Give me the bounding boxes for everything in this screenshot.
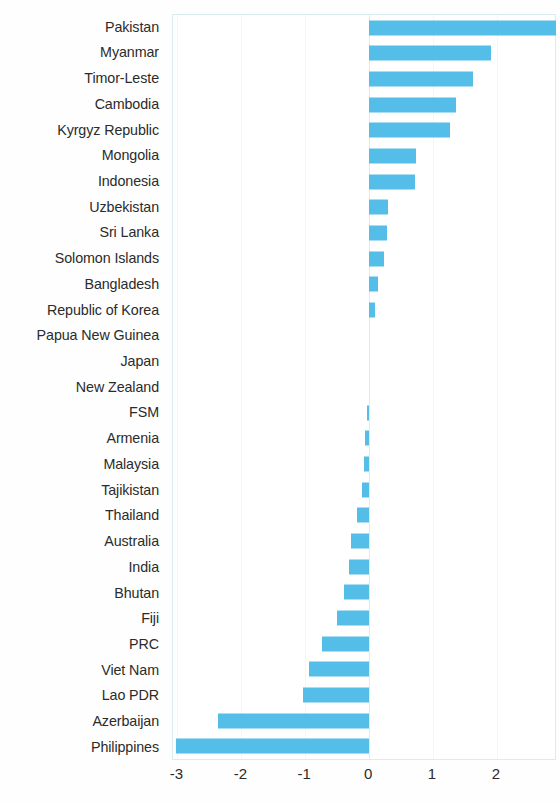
category-label: Bhutan [0, 580, 166, 606]
bar[interactable] [365, 431, 369, 446]
bar[interactable] [369, 277, 378, 292]
bar[interactable] [176, 739, 369, 754]
bar[interactable] [349, 559, 369, 574]
bar[interactable] [369, 303, 375, 318]
category-label: Indonesia [0, 168, 166, 194]
value-tick-label: 0 [364, 766, 372, 781]
bar[interactable] [369, 251, 384, 266]
bar[interactable] [369, 20, 556, 35]
bar-row [173, 41, 555, 67]
plot-area [172, 14, 556, 760]
category-label: Myanmar [0, 40, 166, 66]
bar-row [173, 246, 555, 272]
bar-row [173, 323, 555, 349]
bar-row [173, 502, 555, 528]
bar[interactable] [369, 97, 456, 112]
category-label: Republic of Korea [0, 297, 166, 323]
category-label: Lao PDR [0, 683, 166, 709]
bar[interactable] [362, 482, 369, 497]
value-tick-label: 1 [428, 766, 436, 781]
bar[interactable] [344, 585, 369, 600]
bar-row [173, 15, 555, 41]
bar[interactable] [369, 174, 414, 189]
bar[interactable] [218, 713, 369, 728]
bar-row [173, 477, 555, 503]
bar[interactable] [367, 405, 370, 420]
bar[interactable] [364, 456, 369, 471]
bar-row [173, 708, 555, 734]
horizontal-bar-chart: PakistanMyanmarTimor-LesteCambodiaKyrgyz… [0, 0, 559, 804]
bar-row [173, 528, 555, 554]
bar[interactable] [351, 533, 370, 548]
category-label: FSM [0, 400, 166, 426]
category-label: New Zealand [0, 374, 166, 400]
bar-row [173, 554, 555, 580]
category-label: Papua New Guinea [0, 323, 166, 349]
bar-row [173, 297, 555, 323]
category-label: Mongolia [0, 143, 166, 169]
bar-row [173, 656, 555, 682]
category-label: PRC [0, 631, 166, 657]
bar-row [173, 374, 555, 400]
category-label: Pakistan [0, 14, 166, 40]
bar-row [173, 66, 555, 92]
bar[interactable] [369, 123, 450, 138]
value-tick-label: -2 [234, 766, 247, 781]
category-axis-labels: PakistanMyanmarTimor-LesteCambodiaKyrgyz… [0, 14, 166, 760]
category-label: Japan [0, 348, 166, 374]
bar[interactable] [303, 687, 369, 702]
bar-row [173, 220, 555, 246]
bar-row [173, 605, 555, 631]
category-label: Fiji [0, 606, 166, 632]
category-label: Armenia [0, 426, 166, 452]
bar[interactable] [337, 610, 370, 625]
bar[interactable] [369, 72, 473, 87]
bar-row [173, 426, 555, 452]
bar[interactable] [322, 636, 369, 651]
bar-row [173, 400, 555, 426]
bar[interactable] [369, 149, 416, 164]
value-tick-label: -3 [170, 766, 183, 781]
category-label: India [0, 554, 166, 580]
category-label: Cambodia [0, 91, 166, 117]
bar[interactable] [357, 508, 369, 523]
value-axis-labels: -3-2-1012 [172, 760, 556, 796]
value-tick-label: -1 [298, 766, 311, 781]
bar-row [173, 92, 555, 118]
bar-row [173, 349, 555, 375]
bar-row [173, 631, 555, 657]
bar-row [173, 143, 555, 169]
value-tick-label: 2 [492, 766, 500, 781]
bar-row [173, 733, 555, 759]
category-label: Malaysia [0, 451, 166, 477]
category-label: Solomon Islands [0, 245, 166, 271]
bars-container [173, 15, 555, 759]
bar-row [173, 272, 555, 298]
bar[interactable] [369, 46, 490, 61]
category-label: Kyrgyz Republic [0, 117, 166, 143]
bar-row [173, 169, 555, 195]
category-label: Sri Lanka [0, 220, 166, 246]
category-label: Azerbaijan [0, 708, 166, 734]
category-label: Tajikistan [0, 477, 166, 503]
category-label: Viet Nam [0, 657, 166, 683]
bar-row [173, 579, 555, 605]
category-label: Philippines [0, 734, 166, 760]
category-label: Timor-Leste [0, 65, 166, 91]
bar-row [173, 195, 555, 221]
bar-row [173, 118, 555, 144]
category-label: Australia [0, 528, 166, 554]
category-label: Thailand [0, 503, 166, 529]
bar[interactable] [369, 226, 387, 241]
bar-row [173, 451, 555, 477]
category-label: Uzbekistan [0, 194, 166, 220]
bar-row [173, 682, 555, 708]
bar[interactable] [309, 662, 369, 677]
category-label: Bangladesh [0, 271, 166, 297]
bar[interactable] [369, 200, 388, 215]
